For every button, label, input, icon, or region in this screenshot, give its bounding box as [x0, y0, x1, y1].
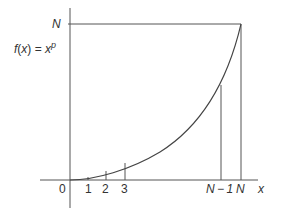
tick-label-2: 2 [102, 182, 109, 196]
function-label: f(x) = xp [14, 40, 56, 56]
tick-label-n: N [236, 182, 245, 196]
power-function-diagram: N f(x) = xp 0 1 2 3 N − 1 N x [0, 0, 284, 214]
n-label-y: N [52, 17, 61, 31]
origin-label: 0 [59, 182, 66, 196]
power-curve [70, 24, 241, 180]
tick-label-n-minus-1: N − 1 [206, 182, 233, 196]
tick-label-3: 3 [121, 182, 128, 196]
tick-label-1: 1 [85, 182, 92, 196]
x-axis-label: x [257, 182, 265, 196]
